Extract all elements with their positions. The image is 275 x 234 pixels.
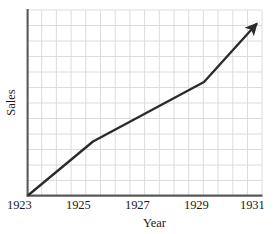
x-tick-label-1925: 1925	[66, 198, 91, 213]
x-axis-title: Year	[0, 216, 275, 231]
x-tick-label-1927: 1927	[125, 198, 150, 213]
line-chart: 1923 1925 1927 1929 1931 Year Sales	[0, 0, 275, 234]
x-tick-label-1929: 1929	[184, 198, 209, 213]
y-axis-title: Sales	[4, 75, 19, 131]
x-tick-label-1923: 1923	[7, 198, 32, 213]
x-axis-title-text: Year	[143, 216, 166, 230]
x-tick-label-1931: 1931	[240, 198, 265, 213]
